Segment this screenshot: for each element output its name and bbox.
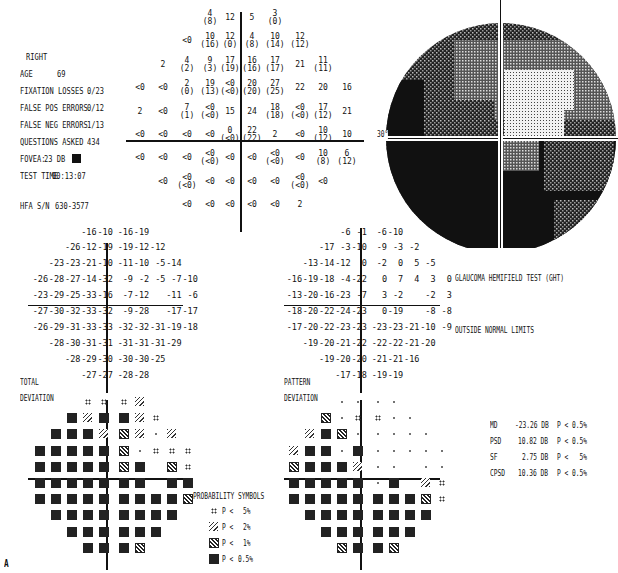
pattern_deviation-value: -16 xyxy=(399,355,419,364)
not-sig-dot-icon xyxy=(409,450,411,452)
threshold-cell: 12(12) xyxy=(289,33,311,49)
threshold-cell: 10(12) xyxy=(312,127,334,143)
threshold-cell: 4(8) xyxy=(199,10,221,26)
pattern_deviation-value: 3 xyxy=(432,291,452,300)
threshold-cell: 21 xyxy=(336,108,358,116)
p2-hatch-icon xyxy=(421,478,430,487)
p05-block-icon xyxy=(305,510,315,520)
fovea-label: FOVEA: xyxy=(20,155,45,164)
threshold-cell: <0 xyxy=(152,108,174,116)
threshold-cell: 27(25) xyxy=(264,80,286,96)
threshold-cell: 16 xyxy=(336,84,358,92)
threshold-cell: <0 xyxy=(199,131,221,139)
p05-block-icon xyxy=(83,429,93,439)
pattern_deviation-value: 0 xyxy=(432,275,452,284)
ght-title: GLAUCOMA HEMIFIELD TEST (GHT) xyxy=(455,274,564,283)
p1-checker-icon xyxy=(337,543,347,553)
pattern_deviation-value: -2 xyxy=(399,243,419,252)
index-name: MD xyxy=(490,421,498,430)
p05-block-icon xyxy=(135,462,145,472)
p05-block-icon xyxy=(83,494,93,504)
pd-title-1: PATTERN xyxy=(284,378,310,387)
p05-block-icon xyxy=(305,462,315,472)
p05-block-icon xyxy=(35,446,45,456)
p05-block-icon xyxy=(135,510,145,520)
threshold-cell: 16(16) xyxy=(241,57,263,73)
grayscale-axis-label: 30° xyxy=(377,130,388,139)
p5-dots-icon xyxy=(355,415,361,421)
p05-block-icon xyxy=(83,527,93,537)
threshold-cell: 17(17) xyxy=(264,57,286,73)
p05-block-icon xyxy=(135,494,145,504)
not-sig-dot-icon xyxy=(441,466,443,468)
pattern_deviation-value: -9 xyxy=(432,323,452,332)
threshold-cell: <0 xyxy=(176,154,198,162)
p05-block-icon xyxy=(389,494,399,504)
legend-5pct-icon xyxy=(211,508,217,514)
p05-block-icon xyxy=(51,478,61,488)
threshold-cell: <0 xyxy=(241,201,263,209)
p05-block-icon xyxy=(51,462,61,472)
p2-hatch-icon xyxy=(289,446,298,455)
p5-dots-icon xyxy=(153,448,159,454)
threshold-cell: 2 xyxy=(129,108,151,116)
p05-block-icon xyxy=(67,429,77,439)
p05-block-icon xyxy=(289,494,299,504)
p5-dots-icon xyxy=(185,464,191,470)
p05-block-icon xyxy=(321,494,331,504)
pattern_deviation-value: -8 xyxy=(432,307,452,316)
false-neg-value: 1/13 xyxy=(87,121,104,130)
fixation-value: 0/23 xyxy=(87,87,104,96)
not-sig-dot-icon xyxy=(377,450,379,452)
p5-dots-icon xyxy=(439,496,445,502)
p05-block-icon xyxy=(99,462,109,472)
p05-block-icon xyxy=(373,494,383,504)
grayscale-map xyxy=(384,0,618,248)
fovea-value: 23 DB xyxy=(44,155,65,164)
total_deviation-value: -19 xyxy=(93,243,113,252)
p2-hatch-icon xyxy=(135,413,144,422)
total_deviation-value: -10 xyxy=(93,228,113,237)
threshold-cell: 15 xyxy=(219,108,241,116)
p1-checker-icon xyxy=(119,462,129,472)
not-sig-dot-icon xyxy=(425,466,427,468)
pattern_deviation-value: -1 xyxy=(347,228,367,237)
p05-block-icon xyxy=(321,429,331,439)
figure-label: A xyxy=(4,559,9,568)
p1-checker-icon xyxy=(337,429,347,439)
not-sig-dot-icon xyxy=(393,466,395,468)
threshold-cell: 4(2) xyxy=(176,57,198,73)
p1-checker-icon xyxy=(135,543,145,553)
ght-result: OUTSIDE NORMAL LIMITS xyxy=(455,326,534,335)
p05-block-icon xyxy=(373,543,383,553)
threshold-cell: <0 xyxy=(176,201,198,209)
p05-block-icon xyxy=(389,478,399,488)
threshold-cell: 2(0) xyxy=(176,80,198,96)
threshold-cell: <0(<0) xyxy=(219,80,241,96)
not-sig-dot-icon xyxy=(139,450,141,452)
threshold-cell: 0(<0) xyxy=(219,127,241,143)
p2-hatch-icon xyxy=(135,429,144,438)
total_deviation-value: -6 xyxy=(178,291,198,300)
p05-block-icon xyxy=(51,429,61,439)
p05-block-icon xyxy=(289,478,299,488)
threshold-cell: 12(0) xyxy=(219,33,241,49)
pattern_deviation-value: -2 xyxy=(383,291,403,300)
p05-block-icon xyxy=(305,494,315,504)
pattern_deviation-value: -23 xyxy=(347,323,367,332)
p05-block-icon xyxy=(389,527,399,537)
age-value: 69 xyxy=(57,70,65,79)
p05-block-icon xyxy=(353,527,363,537)
total_deviation-value: -14 xyxy=(162,259,182,268)
index-p: P < 0.5% xyxy=(557,421,587,430)
threshold-cell: <0 xyxy=(129,131,151,139)
not-sig-dot-icon xyxy=(393,401,395,403)
threshold-cell: 22 xyxy=(289,84,311,92)
threshold-cell: <0(<0) xyxy=(264,150,286,166)
threshold-cell: <0 xyxy=(152,154,174,162)
threshold-cell: <0 xyxy=(289,131,311,139)
pattern_deviation-value: -10 xyxy=(383,228,403,237)
pattern_deviation-value: -20 xyxy=(416,339,436,348)
legend-p: P < xyxy=(222,507,233,516)
p05-block-icon xyxy=(67,510,77,520)
